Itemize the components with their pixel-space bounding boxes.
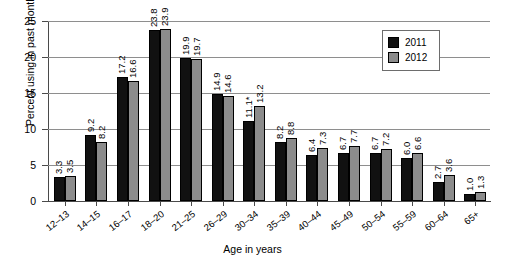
bar-2011-45-49: 6.7	[338, 153, 349, 201]
bar-value-label: 7.2	[381, 133, 390, 146]
bar-2011-14-15: 9.2	[85, 135, 96, 201]
y-axis: 0510152025	[0, 0, 48, 260]
bar-value-label: 19.7	[192, 38, 201, 57]
bar-value-label: 8.2	[275, 126, 284, 139]
y-tick-label: 20	[10, 52, 36, 62]
legend-swatch-2011	[388, 37, 399, 48]
bar-2012-18-20: 23.9	[160, 29, 171, 201]
y-tick-label: 10	[10, 124, 36, 134]
bar-2011-21-25: 19.9	[180, 58, 191, 201]
x-axis-title: Age in years	[0, 243, 505, 255]
x-tick-mark	[160, 201, 161, 206]
bar-group: 19.919.7	[180, 21, 202, 201]
bar-2011-18-20: 23.8	[149, 30, 160, 201]
gridline	[48, 165, 490, 166]
bar-group: 23.823.9	[149, 21, 171, 201]
gridline	[48, 21, 490, 22]
bar-value-label: 6.6	[413, 137, 422, 150]
x-tick-mark	[128, 201, 129, 206]
bar-value-label: 1.3	[476, 175, 485, 188]
bar-2012-21-25: 19.7	[191, 59, 202, 201]
bar-value-label: 8.8	[286, 121, 295, 134]
bar-value-label: 1.0	[465, 178, 474, 191]
y-tick-label: 0	[10, 196, 36, 206]
bar-value-label: 3.5	[65, 160, 74, 173]
legend: 2011 2012	[382, 30, 440, 71]
bar-2012-26-29: 14.6	[223, 96, 234, 201]
bar-value-label: 23.8	[149, 8, 158, 27]
bar-value-label: 7.3	[318, 132, 327, 145]
bar-2012-50-54: 7.2	[381, 149, 392, 201]
bar-group: 11.1*13.2	[243, 21, 265, 201]
x-tick-mark	[223, 201, 224, 206]
bar-group: 9.28.2	[85, 21, 107, 201]
bar-value-label: 11.1*	[244, 97, 253, 118]
bar-group: 14.914.6	[212, 21, 234, 201]
bar-value-label: 8.2	[97, 126, 106, 139]
x-tick-mark	[381, 201, 382, 206]
bar-2011-16-17: 17.2	[117, 77, 128, 201]
bar-group: 6.47.3	[306, 21, 328, 201]
legend-swatch-2012	[388, 52, 399, 63]
bar-2011-65+: 1.0	[464, 194, 475, 201]
bar-2012-45-49: 7.7	[349, 146, 360, 201]
bar-value-label: 3.3	[54, 161, 63, 174]
y-tick-label: 5	[10, 160, 36, 170]
bar-2012-16-17: 16.6	[128, 81, 139, 201]
bar-2011-50-54: 6.7	[370, 153, 381, 201]
bar-2011-60-64: 2.7	[433, 182, 444, 201]
bar-2011-40-44: 6.4	[306, 155, 317, 201]
x-tick-mark	[254, 201, 255, 206]
bar-2012-65+: 1.3	[475, 192, 486, 201]
x-tick-mark	[65, 201, 66, 206]
bar-value-label: 17.2	[117, 56, 126, 75]
bar-chart: Percent using in past month 0510152025 3…	[0, 0, 505, 260]
bar-group: 17.216.6	[117, 21, 139, 201]
x-tick-mark	[317, 201, 318, 206]
bar-value-label: 7.7	[349, 129, 358, 142]
bar-value-label: 6.7	[338, 137, 347, 150]
bar-value-label: 6.0	[402, 142, 411, 155]
bar-value-label: 3.6	[444, 159, 453, 172]
bar-value-label: 9.2	[86, 119, 95, 132]
y-tick-label: 15	[10, 88, 36, 98]
bar-2012-55-59: 6.6	[412, 153, 423, 201]
bar-value-label: 2.7	[433, 165, 442, 178]
bar-2011-55-59: 6.0	[401, 158, 412, 201]
bar-2011-12-13: 3.3	[54, 177, 65, 201]
bar-value-label: 16.6	[128, 60, 137, 79]
x-tick-mark	[96, 201, 97, 206]
bar-group: 8.28.8	[275, 21, 297, 201]
bar-value-label: 14.9	[212, 72, 221, 91]
x-axis-line	[48, 201, 491, 202]
bar-2012-14-15: 8.2	[96, 142, 107, 201]
x-tick-mark	[286, 201, 287, 206]
bar-2012-60-64: 3.6	[444, 175, 455, 201]
bar-value-label: 13.2	[255, 84, 264, 103]
bar-2011-35-39: 8.2	[275, 142, 286, 201]
legend-item-2012: 2012	[388, 50, 434, 65]
gridline	[48, 129, 490, 130]
bar-value-label: 6.4	[307, 139, 316, 152]
bar-2011-26-29: 14.9	[212, 94, 223, 201]
x-tick-mark	[349, 201, 350, 206]
bar-value-label: 6.7	[370, 137, 379, 150]
x-tick-mark	[191, 201, 192, 206]
bar-group: 1.01.3	[464, 21, 486, 201]
bar-value-label: 14.6	[223, 74, 232, 93]
gridline	[48, 93, 490, 94]
bar-2012-40-44: 7.3	[317, 148, 328, 201]
bar-group: 6.77.7	[338, 21, 360, 201]
bar-group: 3.33.5	[54, 21, 76, 201]
y-tick-label: 25	[10, 16, 36, 26]
bar-2011-30-34: 11.1*	[243, 121, 254, 201]
bar-2012-35-39: 8.8	[286, 138, 297, 201]
legend-label-2011: 2011	[405, 37, 427, 48]
bar-value-label: 19.9	[181, 36, 190, 55]
x-tick-mark	[475, 201, 476, 206]
bar-2012-30-34: 13.2	[254, 106, 265, 201]
x-tick-mark	[412, 201, 413, 206]
legend-label-2012: 2012	[405, 52, 427, 63]
bar-2012-12-13: 3.5	[65, 176, 76, 201]
bar-value-label: 23.9	[160, 7, 169, 26]
